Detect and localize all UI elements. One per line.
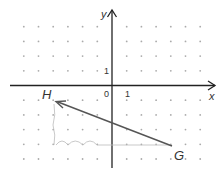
grid-dot bbox=[170, 129, 172, 131]
grid-dot bbox=[141, 99, 143, 101]
grid-dot bbox=[155, 55, 157, 57]
grid-dot bbox=[141, 41, 143, 43]
grid-dot bbox=[155, 114, 157, 116]
grid-dot bbox=[185, 99, 187, 101]
grid-dot bbox=[170, 158, 172, 160]
vertical-step-path bbox=[53, 104, 55, 145]
grid-dot bbox=[199, 114, 201, 116]
grid-dot bbox=[23, 114, 25, 116]
grid-dot bbox=[185, 41, 187, 43]
grid-dot bbox=[126, 41, 128, 43]
grid-dot bbox=[67, 114, 69, 116]
x-axis-label: x bbox=[208, 90, 215, 102]
grid-dot bbox=[82, 55, 84, 57]
grid-dot bbox=[38, 158, 40, 160]
grid-dot bbox=[52, 70, 54, 72]
point-h-label: H bbox=[42, 87, 52, 102]
grid-dot bbox=[82, 41, 84, 43]
grid-dot bbox=[52, 99, 54, 101]
grid-dot bbox=[38, 143, 40, 145]
grid-dot bbox=[170, 70, 172, 72]
grid-dot bbox=[199, 41, 201, 43]
grid-dot bbox=[38, 99, 40, 101]
grid-dot bbox=[23, 143, 25, 145]
grid-dot bbox=[23, 41, 25, 43]
grid-dot bbox=[23, 158, 25, 160]
grid-dot bbox=[185, 70, 187, 72]
grid-dot bbox=[38, 129, 40, 131]
grid-dot bbox=[155, 129, 157, 131]
grid-dot bbox=[141, 129, 143, 131]
grid-dot bbox=[96, 158, 98, 160]
grid-dot bbox=[67, 158, 69, 160]
grid-dot bbox=[199, 70, 201, 72]
grid-dot bbox=[38, 26, 40, 28]
grid-dot bbox=[96, 114, 98, 116]
grid-dot bbox=[199, 99, 201, 101]
grid-dot bbox=[96, 26, 98, 28]
grid-dot bbox=[155, 26, 157, 28]
grid-dot bbox=[52, 26, 54, 28]
grid-dot bbox=[82, 70, 84, 72]
grid-dot bbox=[82, 99, 84, 101]
grid-dot bbox=[23, 55, 25, 57]
y-unit-label: 1 bbox=[104, 66, 109, 76]
coordinate-plane: x y 0 1 1 H G bbox=[0, 0, 223, 172]
grid-dot bbox=[38, 41, 40, 43]
grid-dot bbox=[82, 129, 84, 131]
grid-dot bbox=[185, 114, 187, 116]
grid-dot bbox=[52, 41, 54, 43]
grid-dot bbox=[141, 158, 143, 160]
grid-dot bbox=[126, 26, 128, 28]
grid-dot bbox=[52, 55, 54, 57]
grid-dot bbox=[67, 129, 69, 131]
grid-dot bbox=[155, 41, 157, 43]
vector-gh bbox=[58, 102, 172, 146]
grid-dot bbox=[141, 26, 143, 28]
grid-dot bbox=[52, 158, 54, 160]
grid-dot bbox=[38, 70, 40, 72]
grid-dot bbox=[96, 41, 98, 43]
grid-dot bbox=[82, 26, 84, 28]
grid-dot bbox=[155, 70, 157, 72]
grid-dot bbox=[126, 55, 128, 57]
grid-dot bbox=[23, 70, 25, 72]
grid-dot bbox=[96, 129, 98, 131]
grid-dot bbox=[199, 129, 201, 131]
grid-dot bbox=[185, 129, 187, 131]
grid-dot bbox=[185, 158, 187, 160]
grid-dot bbox=[82, 114, 84, 116]
grid-dot bbox=[141, 55, 143, 57]
grid-dot bbox=[96, 70, 98, 72]
grid-dot bbox=[155, 99, 157, 101]
grid-dot bbox=[67, 26, 69, 28]
grid-dot bbox=[96, 55, 98, 57]
grid-dot bbox=[185, 143, 187, 145]
grid-dot bbox=[67, 41, 69, 43]
grid-dot bbox=[199, 26, 201, 28]
horizontal-step-path bbox=[56, 141, 172, 145]
grid-dot bbox=[199, 55, 201, 57]
grid-dot bbox=[82, 158, 84, 160]
grid-dot bbox=[170, 99, 172, 101]
grid-dot bbox=[67, 55, 69, 57]
grid-dot bbox=[126, 158, 128, 160]
grid-dot bbox=[23, 129, 25, 131]
grid-dot bbox=[23, 26, 25, 28]
grid-dot bbox=[170, 41, 172, 43]
grid-dot bbox=[52, 114, 54, 116]
grid-dot bbox=[126, 99, 128, 101]
x-unit-label: 1 bbox=[125, 89, 130, 99]
grid-dot bbox=[141, 70, 143, 72]
grid-dot bbox=[141, 114, 143, 116]
grid-dot bbox=[67, 99, 69, 101]
point-g-label: G bbox=[174, 148, 184, 163]
grid-dot bbox=[170, 114, 172, 116]
grid-dot bbox=[185, 55, 187, 57]
grid-dot bbox=[126, 70, 128, 72]
grid-dot bbox=[38, 55, 40, 57]
grid-dot bbox=[170, 55, 172, 57]
grid-dot bbox=[185, 26, 187, 28]
grid-dot bbox=[155, 158, 157, 160]
grid-dot bbox=[199, 143, 201, 145]
